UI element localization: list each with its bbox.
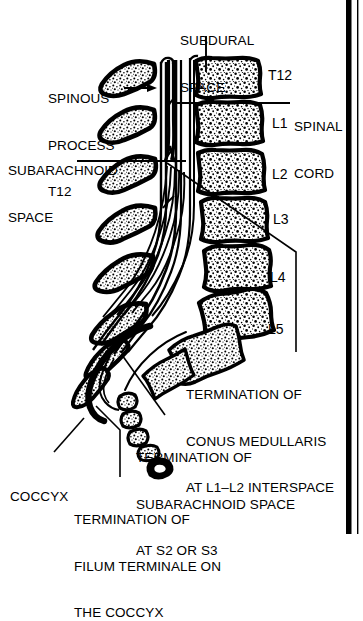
label-spinal-cord-line-2: CORD <box>294 166 343 182</box>
vertebra-level-label-l2: L2 <box>272 167 288 182</box>
vertebra-level-label-t12: T12 <box>268 68 292 83</box>
label-termination-filum: TERMINATION OF FILUM TERMINALE ON THE CO… <box>74 481 221 621</box>
leader-coccyx <box>54 418 84 452</box>
label-subarachnoid-space-line-2: SPACE <box>8 210 118 226</box>
label-termination-conus-line-1: TERMINATION OF <box>186 387 334 403</box>
border-thin-rule <box>357 0 358 534</box>
label-termination-filum-line-3: THE COCCYX <box>74 605 221 621</box>
arrowhead-spinous <box>147 84 157 92</box>
label-spinal-cord: SPINAL CORD <box>294 88 343 212</box>
border-thick-bar <box>346 0 352 534</box>
label-coccyx-line-1: COCCYX <box>10 489 68 505</box>
label-subarachnoid-space-line-1: SUBARACHNOID <box>8 163 118 179</box>
label-termination-subarachnoid-line-1: TERMINATION OF <box>136 450 295 466</box>
label-subdural-space-line-1: SUBDURAL <box>180 33 254 49</box>
label-coccyx: COCCYX <box>10 458 68 536</box>
label-spinous-process-line-1: SPINOUS <box>48 91 115 107</box>
label-spinal-cord-line-1: SPINAL <box>294 119 343 135</box>
label-subdural-space-line-2: SPACE <box>180 80 254 96</box>
page-border <box>346 0 358 534</box>
label-subarachnoid-space: SUBARACHNOID SPACE <box>8 132 118 256</box>
label-termination-filum-line-1: TERMINATION OF <box>74 512 221 528</box>
vertebra-level-label-l4: L4 <box>270 270 286 285</box>
label-subdural-space: SUBDURAL SPACE <box>180 2 254 126</box>
vertebra-level-label-l3: L3 <box>273 212 289 227</box>
vertebra-level-label-l5: L5 <box>268 322 284 337</box>
vertebra-level-label-l1: L1 <box>272 116 288 131</box>
label-termination-filum-line-2: FILUM TERMINALE ON <box>74 559 221 575</box>
